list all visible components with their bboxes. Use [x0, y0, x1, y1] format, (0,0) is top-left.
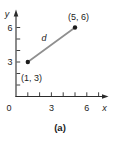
- distance-figure: 36 36 y x 0 (1, 3) (5, 6) d (a): [0, 0, 115, 141]
- data-point: [73, 25, 77, 29]
- x-tick-label: 6: [84, 103, 89, 113]
- y-axis-label: y: [4, 9, 10, 19]
- x-ticks: [28, 92, 99, 96]
- y-tick-label: 6: [7, 23, 12, 33]
- y-tick-labels: 36: [7, 23, 12, 67]
- x-tick-labels: 36: [49, 103, 89, 113]
- segment-layer: [28, 28, 75, 63]
- x-axis-arrow-icon: [102, 94, 109, 99]
- point-label-1-3: (1, 3): [21, 73, 42, 83]
- segment-label-d: d: [41, 33, 47, 43]
- origin-label: 0: [6, 103, 11, 113]
- segment-line: [28, 28, 75, 63]
- x-axis-label: x: [101, 103, 107, 113]
- y-axis-arrow-icon: [14, 10, 19, 17]
- figure-caption: (a): [54, 122, 66, 133]
- y-tick-label: 3: [7, 57, 12, 67]
- x-axis: 36: [16, 92, 109, 112]
- point-label-5-6: (5, 6): [68, 12, 89, 22]
- y-ticks: [17, 28, 21, 86]
- x-tick-label: 3: [49, 103, 54, 113]
- data-point: [26, 60, 30, 64]
- coordinate-plot: 36 36 y x 0 (1, 3) (5, 6) d (a): [0, 0, 115, 141]
- y-axis: 36: [7, 10, 20, 98]
